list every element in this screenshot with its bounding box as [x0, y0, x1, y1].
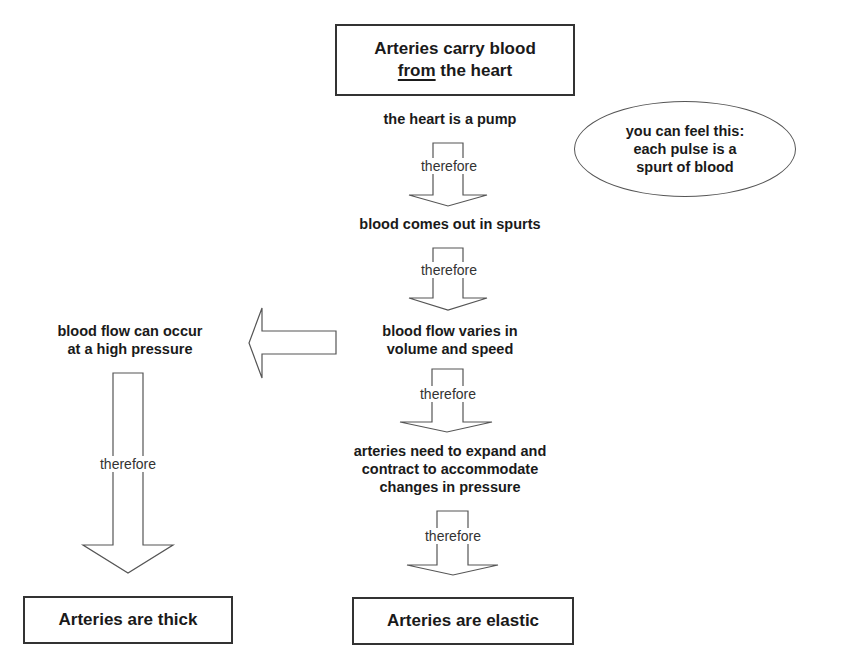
callout-line-2: each pulse is a — [633, 140, 736, 158]
node-high-pressure-line-1: blood flow can occur — [20, 322, 240, 340]
node-high-pressure: blood flow can occur at a high pressure — [20, 322, 240, 358]
node-varies-line-2: volume and speed — [340, 340, 560, 358]
node-heart-pump: the heart is a pump — [345, 110, 555, 128]
conclusion-elastic: Arteries are elastic — [352, 597, 574, 645]
connector-label-5: therefore — [91, 456, 165, 472]
node-high-pressure-line-2: at a high pressure — [20, 340, 240, 358]
callout-line-1: you can feel this: — [626, 122, 744, 140]
title-emphasis: from — [398, 61, 436, 80]
down-arrow-2 — [409, 248, 487, 310]
title-line-2: from the heart — [398, 60, 512, 82]
tall-down-arrow — [83, 373, 173, 573]
down-arrow-1 — [409, 143, 487, 206]
connector-label-4: therefore — [416, 528, 490, 544]
conclusion-elastic-label: Arteries are elastic — [387, 610, 539, 632]
node-varies: blood flow varies in volume and speed — [340, 322, 560, 358]
conclusion-thick: Arteries are thick — [23, 596, 233, 644]
node-varies-line-1: blood flow varies in — [340, 322, 560, 340]
connector-label-1: therefore — [412, 158, 486, 174]
left-arrow — [249, 308, 336, 378]
title-box: Arteries carry blood from the heart — [335, 24, 575, 96]
connector-label-2: therefore — [412, 262, 486, 278]
node-spurts: blood comes out in spurts — [320, 215, 580, 233]
title-line-1: Arteries carry blood — [374, 38, 536, 60]
node-expand-line-1: arteries need to expand and — [300, 442, 600, 460]
callout-ellipse: you can feel this: each pulse is a spurt… — [574, 101, 796, 197]
conclusion-thick-label: Arteries are thick — [59, 609, 198, 631]
callout-line-3: spurt of blood — [636, 158, 733, 176]
title-line-2-rest: the heart — [436, 61, 513, 80]
node-expand-line-2: contract to accommodate — [300, 460, 600, 478]
node-expand-line-3: changes in pressure — [300, 478, 600, 496]
connector-label-3: therefore — [411, 386, 485, 402]
node-expand: arteries need to expand and contract to … — [300, 442, 600, 496]
